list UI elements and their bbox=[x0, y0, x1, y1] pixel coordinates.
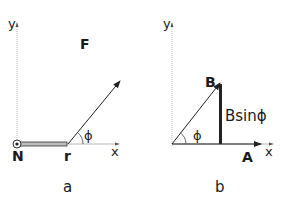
angle-label: ϕ bbox=[193, 128, 202, 143]
x-axis-label: x bbox=[265, 144, 273, 159]
force-vector-arrow bbox=[68, 81, 120, 144]
pivot-dot-icon bbox=[15, 142, 18, 145]
y-axis-label: y bbox=[163, 16, 171, 31]
lever-label: r bbox=[64, 148, 71, 164]
caption-b: b bbox=[215, 178, 225, 196]
vector-a-label: A bbox=[242, 149, 253, 165]
vector-b-label: B bbox=[205, 74, 216, 90]
x-axis-label: x bbox=[111, 144, 119, 159]
angle-label: ϕ bbox=[84, 128, 93, 143]
origin-label: N bbox=[12, 148, 24, 164]
panel-b: y x B A Bsinϕ ϕ b bbox=[163, 16, 273, 196]
angle-arc bbox=[181, 133, 186, 144]
panel-a: y x N r F ϕ a bbox=[8, 16, 120, 196]
force-label: F bbox=[80, 36, 90, 52]
caption-a: a bbox=[63, 178, 72, 196]
y-axis-label: y bbox=[8, 16, 16, 31]
component-label: Bsinϕ bbox=[225, 107, 267, 125]
vector-diagram: y x N r F ϕ a y x B A Bsinϕ ϕ b bbox=[0, 0, 281, 199]
angle-arc bbox=[78, 133, 83, 145]
lever-arm-rod bbox=[19, 142, 67, 146]
